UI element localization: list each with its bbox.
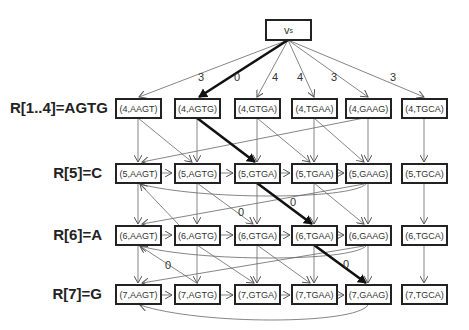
edge-weight: 4 <box>272 71 278 83</box>
graph-node: (7,AAGT) <box>115 284 162 305</box>
graph-node: (7,TGAA) <box>291 284 338 305</box>
graph-node: (6,GTGA) <box>234 225 281 246</box>
graph-node: (5,AAGT) <box>115 163 162 184</box>
edge-weight: 0 <box>238 206 244 218</box>
graph-node: (6,TGAA) <box>291 225 338 246</box>
graph-node: (6,TGCA) <box>401 225 448 246</box>
row-label: R[5]=C <box>10 164 102 181</box>
row-label: R[1..4]=AGTG <box>10 99 102 116</box>
graph-node: (5,GTGA) <box>234 163 281 184</box>
graph-node: (6,AGTG) <box>174 225 221 246</box>
edge-weight: 4 <box>297 71 303 83</box>
edge-weight: 3 <box>390 71 396 83</box>
graph-node: (7,AGTG) <box>174 284 221 305</box>
graph-node: (7,GAAG) <box>345 284 392 305</box>
source-node: vs <box>265 19 312 41</box>
edge-weight: 0 <box>290 196 296 208</box>
edge-weight: 0 <box>343 258 349 270</box>
graph-node: (4,AAGT) <box>115 98 162 119</box>
edge-weight: 0 <box>234 71 240 83</box>
graph-node: (4,TGAA) <box>291 98 338 119</box>
row-label: R[6]=A <box>10 226 102 243</box>
graph-node: (7,GTGA) <box>234 284 281 305</box>
graph-node: (5,TGAA) <box>291 163 338 184</box>
graph-node: (7,TGCA) <box>401 284 448 305</box>
graph-node: (5,AGTG) <box>174 163 221 184</box>
edge-weight: 3 <box>331 71 337 83</box>
graph-node: (4,GTGA) <box>234 98 281 119</box>
source-node-subscript: s <box>290 27 294 34</box>
edge-weight: 0 <box>165 259 171 271</box>
graph-node: (4,TGCA) <box>401 98 448 119</box>
graph-node: (5,GAAG) <box>345 163 392 184</box>
edge-weight: 3 <box>198 71 204 83</box>
graph-node: (4,GAAG) <box>345 98 392 119</box>
graph-node: (6,GAAG) <box>345 225 392 246</box>
graph-node: (6,AAGT) <box>115 225 162 246</box>
row-label: R[7]=G <box>10 285 102 302</box>
graph-node: (5,TGCA) <box>401 163 448 184</box>
graph-node: (4,AGTG) <box>174 98 221 119</box>
